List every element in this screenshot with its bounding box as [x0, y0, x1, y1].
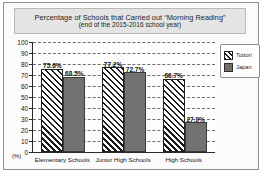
legend-item-series-b: Japan — [224, 61, 256, 73]
y-axis-tick-label: 10 — [6, 138, 28, 145]
bar-value-label: 75.6% — [43, 62, 61, 69]
plot-area: 1009080706050403020100 75.6%68.5%77.2%72… — [32, 42, 215, 153]
legend-swatch-hatched-icon — [224, 51, 233, 60]
gridline — [33, 42, 215, 43]
y-axis-tick — [29, 64, 33, 65]
bar-value-label: 77.2% — [104, 61, 122, 68]
y-axis-tick-label: 0 — [6, 149, 28, 156]
y-axis-tick — [29, 130, 33, 131]
y-axis-tick — [29, 53, 33, 54]
y-axis-tick-label: 40 — [6, 105, 28, 112]
x-axis-category-label: Junior High Schools — [95, 156, 150, 163]
y-axis-tick-label: 90 — [6, 50, 28, 57]
x-axis-category-label: High Schools — [165, 156, 201, 163]
bar: 77.2% — [102, 67, 124, 152]
bar: 27.0% — [185, 122, 207, 152]
y-axis-tick — [29, 75, 33, 76]
bar-value-label: 66.7% — [164, 72, 182, 79]
chart-title: Percentage of Schools that Carried out “… — [34, 14, 225, 22]
y-axis-tick-label: 80 — [6, 61, 28, 68]
bar-value-label: 27.0% — [186, 116, 204, 123]
y-axis-tick-label: 50 — [6, 94, 28, 101]
bar-value-label: 68.5% — [65, 70, 83, 77]
bar: 72.7% — [124, 72, 146, 152]
x-axis-category-label: Elementary Schools — [35, 156, 90, 163]
y-axis-tick — [29, 119, 33, 120]
y-axis-tick-label: 100 — [6, 39, 28, 46]
y-axis-tick — [29, 86, 33, 87]
legend-item-series-a: Tottori — [224, 49, 256, 61]
y-axis-tick — [29, 152, 33, 153]
chart-title-band: Percentage of Schools that Carried out “… — [14, 8, 246, 34]
chart-subtitle: (end of the 2015-2016 school year) — [79, 21, 182, 28]
bar: 68.5% — [63, 77, 85, 152]
y-axis-tick-label: 60 — [6, 83, 28, 90]
legend-label-series-a: Tottori — [236, 52, 252, 58]
gridline — [33, 53, 215, 54]
y-axis-tick-label: 20 — [6, 127, 28, 134]
chart-legend: Tottori Japan — [220, 44, 260, 78]
y-axis-tick — [29, 141, 33, 142]
y-axis-tick — [29, 108, 33, 109]
y-axis-tick-label: 70 — [6, 72, 28, 79]
legend-label-series-b: Japan — [236, 64, 252, 70]
bar: 66.7% — [163, 79, 185, 152]
bar-value-label: 72.7% — [126, 66, 144, 73]
legend-swatch-solid-icon — [224, 63, 233, 72]
y-axis-tick-label: 30 — [6, 116, 28, 123]
y-axis-tick — [29, 97, 33, 98]
figure-frame: Percentage of Schools that Carried out “… — [3, 2, 259, 170]
bar: 75.6% — [41, 69, 63, 152]
y-axis-tick — [29, 42, 33, 43]
